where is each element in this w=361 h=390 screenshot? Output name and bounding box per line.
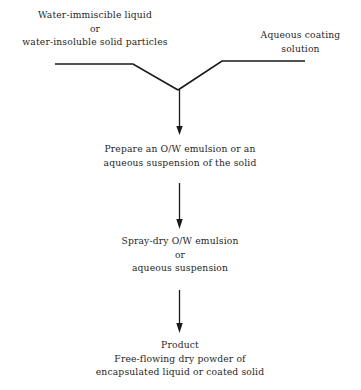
step-prepare-line-1: Prepare an O/W emulsion or an [40,142,320,156]
arrow-3-head [176,323,182,333]
step-spray-dry-line-1: Spray-dry O/W emulsion [40,234,320,248]
step-product: Product Free-flowing dry powder of encap… [30,338,330,379]
input-label-left-line-2: or [0,22,190,36]
flowchart-connectors [0,0,361,390]
input-label-right: Aqueous coating solution [240,28,361,55]
merge-line-right [178,61,305,90]
step-prepare-line-2: aqueous suspension of the solid [40,156,320,170]
input-label-left-line-3: water-insoluble solid particles [0,35,190,49]
input-label-right-line-1: Aqueous coating [240,28,361,42]
input-label-left: Water-immiscible liquid or water-insolub… [0,8,190,49]
flowchart-canvas: Water-immiscible liquid or water-insolub… [0,0,361,390]
input-label-right-line-2: solution [240,42,361,56]
merge-line-left [55,64,178,90]
input-label-left-line-1: Water-immiscible liquid [0,8,190,22]
arrow-1-head [176,126,182,135]
step-product-line-1: Product [30,338,330,352]
arrow-2-head [176,219,182,229]
step-spray-dry: Spray-dry O/W emulsion or aqueous suspen… [40,234,320,275]
step-prepare: Prepare an O/W emulsion or an aqueous su… [40,142,320,169]
step-product-line-2: Free-flowing dry powder of [30,352,330,366]
step-spray-dry-line-2: or [40,248,320,262]
step-product-line-3: encapsulated liquid or coated solid [30,365,330,379]
step-spray-dry-line-3: aqueous suspension [40,261,320,275]
